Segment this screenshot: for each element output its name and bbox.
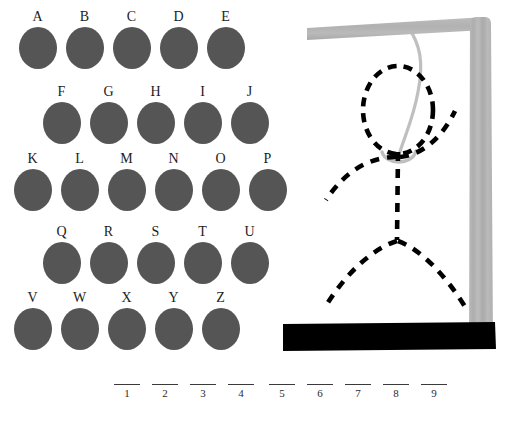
blank-line: [152, 384, 178, 385]
letter-key-l[interactable]: L: [56, 152, 103, 211]
letter-key-o[interactable]: O: [197, 152, 244, 211]
letter-key-k[interactable]: K: [9, 152, 56, 211]
letter-key-label: J: [247, 85, 252, 99]
letter-key-disc[interactable]: [155, 308, 193, 350]
letter-key-label: F: [58, 85, 66, 99]
gallows-beam: [307, 17, 485, 40]
blank-line: [383, 384, 409, 385]
letter-key-label: B: [80, 10, 89, 24]
letter-key-disc[interactable]: [19, 27, 57, 69]
word-group-2: 56789: [263, 384, 453, 399]
letter-key-e[interactable]: E: [202, 10, 249, 69]
letter-key-x[interactable]: X: [103, 291, 150, 350]
letter-key-label: W: [73, 291, 86, 305]
letter-key-disc[interactable]: [184, 102, 222, 144]
blank-slot-4: 4: [222, 384, 260, 399]
letter-key-disc[interactable]: [160, 27, 198, 69]
letter-key-disc[interactable]: [14, 169, 52, 211]
letter-key-label: D: [173, 10, 183, 24]
letter-key-disc[interactable]: [137, 242, 175, 284]
letter-key-h[interactable]: H: [132, 85, 179, 144]
hangman-game: ABCDEFGHIJKLMNOPQRSTUVWXYZ: [0, 0, 527, 428]
letter-key-label: Y: [168, 291, 178, 305]
stick-figure: [324, 66, 467, 310]
letter-key-disc[interactable]: [231, 242, 269, 284]
letter-key-disc[interactable]: [43, 242, 81, 284]
letter-key-disc[interactable]: [61, 308, 99, 350]
letter-key-disc[interactable]: [108, 308, 146, 350]
letter-key-disc[interactable]: [184, 242, 222, 284]
blank-number: 7: [355, 387, 361, 399]
letter-key-disc[interactable]: [113, 27, 151, 69]
letter-key-label: U: [244, 225, 254, 239]
blank-line: [228, 384, 254, 385]
figure-body: [397, 152, 398, 240]
letter-key-label: G: [103, 85, 113, 99]
letter-key-disc[interactable]: [155, 169, 193, 211]
blank-slot-5: 5: [263, 384, 301, 399]
alphabet-row-4: QRSTU: [38, 225, 273, 284]
blank-line: [269, 384, 295, 385]
alphabet-row-3: KLMNOP: [9, 152, 291, 211]
blank-number: 4: [238, 387, 244, 399]
letter-key-label: N: [168, 152, 178, 166]
rope-icon: [398, 27, 421, 158]
letter-key-disc[interactable]: [231, 102, 269, 144]
letter-key-s[interactable]: S: [132, 225, 179, 284]
gallows-post: [469, 17, 493, 346]
letter-key-disc[interactable]: [43, 102, 81, 144]
blank-line: [114, 384, 140, 385]
letter-key-m[interactable]: M: [103, 152, 150, 211]
letter-key-label: M: [120, 152, 132, 166]
letter-key-t[interactable]: T: [179, 225, 226, 284]
letter-key-label: I: [200, 85, 205, 99]
figure-left-leg: [324, 241, 397, 309]
letter-key-label: Z: [216, 291, 225, 305]
letter-key-disc[interactable]: [202, 169, 240, 211]
gallows-drawing: [270, 0, 527, 372]
letter-key-disc[interactable]: [90, 242, 128, 284]
letter-key-label: H: [150, 85, 160, 99]
letter-key-disc[interactable]: [14, 308, 52, 350]
letter-key-label: R: [104, 225, 113, 239]
letter-key-label: Q: [56, 225, 66, 239]
blank-slot-6: 6: [301, 384, 339, 399]
letter-key-label: C: [127, 10, 136, 24]
blank-number: 2: [162, 387, 168, 399]
letter-key-b[interactable]: B: [61, 10, 108, 69]
figure-left-arm: [326, 157, 396, 200]
letter-key-label: L: [75, 152, 84, 166]
letter-key-j[interactable]: J: [226, 85, 273, 144]
letter-key-i[interactable]: I: [179, 85, 226, 144]
letter-key-d[interactable]: D: [155, 10, 202, 69]
letter-key-v[interactable]: V: [9, 291, 56, 350]
blank-slot-3: 3: [184, 384, 222, 399]
letter-key-disc[interactable]: [90, 102, 128, 144]
letter-key-disc[interactable]: [66, 27, 104, 69]
letter-key-n[interactable]: N: [150, 152, 197, 211]
alphabet-row-5: VWXYZ: [9, 291, 244, 350]
letter-key-g[interactable]: G: [85, 85, 132, 144]
letter-key-f[interactable]: F: [38, 85, 85, 144]
letter-key-y[interactable]: Y: [150, 291, 197, 350]
letter-key-q[interactable]: Q: [38, 225, 85, 284]
blank-number: 6: [317, 387, 323, 399]
letter-key-disc[interactable]: [137, 102, 175, 144]
letter-key-disc[interactable]: [108, 169, 146, 211]
letter-key-a[interactable]: A: [14, 10, 61, 69]
blank-line: [345, 384, 371, 385]
letter-key-disc[interactable]: [61, 169, 99, 211]
letter-key-w[interactable]: W: [56, 291, 103, 350]
letter-key-r[interactable]: R: [85, 225, 132, 284]
letter-key-u[interactable]: U: [226, 225, 273, 284]
letter-key-label: V: [27, 291, 37, 305]
blank-slot-8: 8: [377, 384, 415, 399]
letter-key-c[interactable]: C: [108, 10, 155, 69]
letter-key-label: A: [32, 10, 42, 24]
blank-line: [307, 384, 333, 385]
letter-key-disc[interactable]: [202, 308, 240, 350]
letter-key-disc[interactable]: [207, 27, 245, 69]
letter-key-label: K: [27, 152, 37, 166]
word-blanks: 123456789: [0, 376, 527, 428]
letter-key-z[interactable]: Z: [197, 291, 244, 350]
